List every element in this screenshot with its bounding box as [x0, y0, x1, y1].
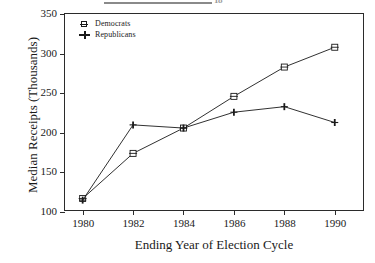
y-axis-tick-label: 100 [41, 205, 58, 217]
y-axis-tick-label: 200 [41, 126, 58, 138]
y-axis-tick-label: 350 [41, 7, 58, 19]
data-point-republicans [230, 109, 237, 116]
line-chart-figure: Median Receipts (Thousands) Ending Year … [0, 0, 375, 263]
data-point-democrats [280, 64, 288, 70]
legend-item-republicans: Republicans [79, 30, 136, 40]
x-axis-tick-label: 1990 [324, 217, 346, 229]
y-axis-tick: 300 [60, 54, 65, 55]
y-axis-tick-label: 250 [41, 86, 58, 98]
data-point-democrats [129, 150, 137, 156]
legend-label-democrats: Democrats [95, 19, 131, 29]
y-axis-tick: 250 [60, 93, 65, 94]
plus-marker-icon [79, 30, 91, 40]
y-axis-title: Median Receipts (Thousands) [26, 20, 40, 210]
x-axis-tick: 1980 [83, 210, 84, 215]
x-axis-tick-label: 1988 [274, 217, 296, 229]
plot-area: 100150200250300350 198019821984198619881… [65, 14, 363, 210]
data-point-republicans [331, 119, 338, 126]
y-axis-tick: 200 [60, 133, 65, 134]
series-line-republicans [83, 107, 335, 200]
y-axis-tick: 150 [60, 172, 65, 173]
data-point-democrats [331, 44, 339, 50]
plot-frame: 100150200250300350 198019821984198619881… [64, 13, 364, 211]
y-axis-tick: 100 [60, 212, 65, 213]
x-axis-tick: 1988 [284, 210, 285, 215]
x-axis-tick-label: 1980 [72, 217, 94, 229]
x-axis-tick: 1982 [133, 210, 134, 215]
x-axis-tick-label: 1982 [123, 217, 145, 229]
square-marker-icon [79, 19, 91, 29]
chart-legend: Democrats Republicans [79, 19, 136, 41]
x-axis-tick-label: 1984 [173, 217, 195, 229]
data-point-republicans [130, 121, 137, 128]
x-axis-tick-label: 1986 [223, 217, 245, 229]
data-point-democrats [230, 93, 238, 99]
series-lines [65, 14, 365, 212]
series-line-democrats [83, 47, 335, 198]
x-axis-title: Ending Year of Election Cycle [64, 238, 364, 252]
data-point-republicans [281, 103, 288, 110]
y-axis-tick: 350 [60, 14, 65, 15]
x-axis-tick: 1984 [183, 210, 184, 215]
y-axis-tick-label: 300 [41, 47, 58, 59]
legend-item-democrats: Democrats [79, 19, 136, 29]
x-axis-tick: 1990 [335, 210, 336, 215]
y-axis-tick-label: 150 [41, 165, 58, 177]
legend-label-republicans: Republicans [95, 30, 136, 40]
x-axis-tick: 1986 [234, 210, 235, 215]
